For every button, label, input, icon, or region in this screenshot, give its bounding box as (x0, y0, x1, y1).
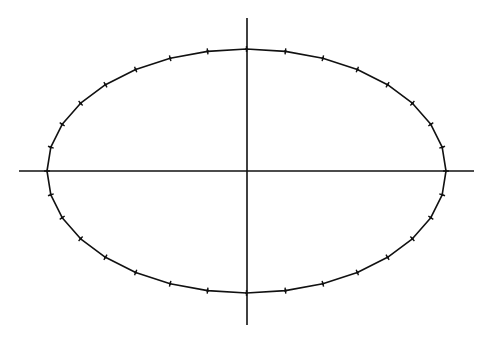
vertex-dot (411, 237, 414, 240)
vertex-dot (386, 256, 389, 259)
vertex-dot (245, 292, 248, 295)
vertex-dot (386, 83, 389, 86)
vertex-dot (322, 282, 325, 285)
ellipse-diagram (0, 0, 491, 339)
vertex-dot (411, 102, 414, 105)
vertex-dot (206, 289, 209, 292)
vertex-dot (284, 50, 287, 53)
vertex-dot (61, 216, 64, 219)
vertex-dot (50, 146, 53, 149)
vertex-dot (104, 256, 107, 259)
vertex-dot (322, 57, 325, 60)
vertex-dot (169, 57, 172, 60)
vertex-dot (79, 102, 82, 105)
vertex-dot (284, 289, 287, 292)
vertex-dot (61, 123, 64, 126)
vertex-dot (79, 237, 82, 240)
vertex-dot (430, 123, 433, 126)
vertex-dot (134, 68, 137, 71)
vertex-dot (441, 194, 444, 197)
vertex-dot (46, 170, 49, 173)
vertex-dot (206, 50, 209, 53)
vertex-dot (430, 216, 433, 219)
vertex-dot (356, 68, 359, 71)
vertex-dot (50, 194, 53, 197)
vertex-dot (169, 282, 172, 285)
vertex-dot (104, 83, 107, 86)
vertex-dot (441, 146, 444, 149)
vertex-dot (445, 170, 448, 173)
vertex-dot (245, 48, 248, 51)
vertex-dot (134, 271, 137, 274)
vertex-dot (356, 271, 359, 274)
